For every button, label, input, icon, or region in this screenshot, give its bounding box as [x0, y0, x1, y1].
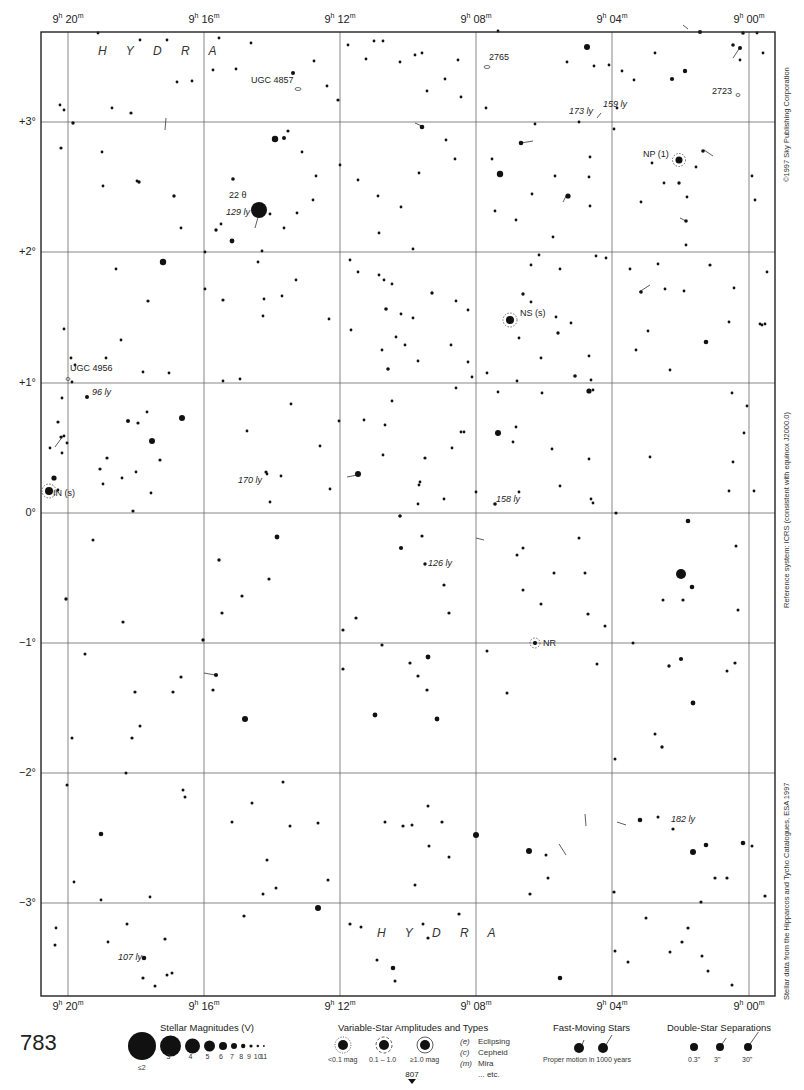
- star: [412, 317, 415, 320]
- star: [280, 475, 283, 478]
- galaxy-icon: [484, 66, 490, 69]
- map-label: 129 ly: [226, 207, 250, 217]
- star: [732, 461, 735, 464]
- proper-motion-vector: [606, 1035, 612, 1045]
- star: [728, 490, 731, 493]
- ra-label: 9h 08m: [460, 999, 491, 1012]
- next-chart-link[interactable]: 807: [402, 1070, 422, 1084]
- star: [423, 456, 426, 459]
- star: [102, 483, 105, 486]
- double-separation-line: [750, 1032, 758, 1044]
- star: [163, 937, 166, 940]
- star-field: [49, 30, 769, 988]
- star: [467, 361, 470, 364]
- star: [290, 403, 293, 406]
- star: [59, 104, 62, 107]
- star: [315, 175, 318, 178]
- star: [347, 44, 350, 47]
- star: [686, 926, 689, 929]
- star: [448, 856, 451, 859]
- star: [495, 430, 501, 436]
- star: [679, 657, 683, 661]
- star: [595, 255, 598, 258]
- magnitude-sample: [128, 1032, 156, 1060]
- magnitude-label: 11: [260, 1053, 267, 1060]
- star: [534, 123, 537, 126]
- star: [613, 128, 616, 131]
- star: [326, 85, 329, 88]
- star: [384, 821, 387, 824]
- ra-label: 9h 00m: [733, 12, 764, 25]
- star: [451, 447, 454, 450]
- star: [526, 848, 532, 854]
- variable-type-row: (m)Mira: [460, 1058, 510, 1069]
- map-label: 126 ly: [428, 558, 452, 568]
- dec-label: +2°: [2, 245, 36, 257]
- star: [63, 435, 66, 438]
- dec-label: −3°: [2, 896, 36, 908]
- magnitude-sample: [241, 1044, 245, 1048]
- star: [522, 589, 525, 592]
- star: [425, 688, 428, 691]
- variable-type-row: (e)Eclipsing: [460, 1036, 510, 1047]
- double-separation-label: 3": [714, 1056, 720, 1063]
- star: [131, 509, 134, 512]
- star: [246, 430, 249, 433]
- star: [471, 376, 474, 379]
- star: [120, 339, 123, 342]
- variable-amplitude-label: 0.1 – 1.0: [369, 1056, 396, 1063]
- star: [741, 841, 746, 846]
- star: [506, 692, 509, 695]
- star: [191, 80, 194, 83]
- star: [584, 572, 587, 575]
- star: [639, 290, 643, 294]
- star: [764, 323, 767, 326]
- map-label: NR: [543, 638, 556, 648]
- star: [267, 577, 270, 580]
- star: [269, 501, 272, 504]
- map-label: 182 ly: [671, 814, 695, 824]
- star: [578, 537, 581, 540]
- star: [63, 328, 66, 331]
- star: [447, 611, 450, 614]
- star: [754, 199, 757, 202]
- star: [430, 291, 433, 294]
- variable-amplitude-label: <0.1 mag: [328, 1056, 357, 1063]
- star: [231, 821, 234, 824]
- magnitude-sample: [263, 1045, 265, 1047]
- star: [250, 42, 253, 45]
- star: [621, 70, 624, 73]
- star: [381, 349, 384, 352]
- star: [753, 490, 756, 493]
- star: [350, 329, 353, 332]
- star: [460, 96, 463, 99]
- star: [443, 498, 446, 501]
- star: [182, 789, 185, 792]
- star: [589, 205, 592, 208]
- star: [420, 534, 423, 537]
- star: [71, 381, 74, 384]
- map-label: 173 ly: [569, 106, 593, 116]
- star: [558, 976, 563, 981]
- star: [486, 650, 489, 653]
- star: [166, 39, 169, 42]
- reference-system-credit: Reference system: ICRS (consistent with …: [782, 412, 791, 608]
- star: [56, 420, 59, 423]
- star: [699, 900, 702, 903]
- star: [63, 109, 66, 112]
- star: [690, 585, 695, 590]
- star: [538, 254, 541, 257]
- star: [231, 177, 235, 181]
- magnitude-label: 7: [230, 1053, 234, 1060]
- variable-sample: [338, 1040, 348, 1050]
- star: [556, 331, 559, 334]
- star: [608, 64, 611, 67]
- star: [485, 107, 488, 110]
- ra-label: 9h 04m: [596, 999, 627, 1012]
- star: [450, 344, 453, 347]
- star: [149, 896, 152, 899]
- star: [531, 193, 534, 196]
- magnitudes-legend-title: Stellar Magnitudes (V): [160, 1022, 254, 1033]
- proper-motion-vector: [704, 150, 713, 156]
- star: [365, 58, 368, 61]
